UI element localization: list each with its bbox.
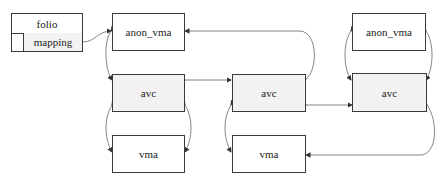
edge-avc-middle-anon-vma: [185, 31, 314, 79]
avc-left-node: avc: [112, 74, 185, 112]
folio-mapping-field: mapping: [24, 33, 82, 51]
folio-empty-cell: [12, 33, 24, 51]
edge-avc-vma-middle: [225, 105, 231, 152]
avc-right-node: avc: [352, 73, 427, 112]
vma-left-node: vma: [112, 135, 185, 173]
folio-struct: folio mapping: [11, 13, 83, 52]
avc-middle-node: avc: [232, 74, 306, 112]
edge-avc-right-vma-middle: [306, 105, 435, 155]
edge-avc-vma-left-b: [185, 105, 191, 152]
edge-anon-vma-avc-right-a: [345, 31, 351, 80]
anon-vma-right-node: anon_vma: [352, 13, 426, 51]
anon-vma-left-node: anon_vma: [112, 13, 185, 51]
vma-middle-node: vma: [232, 135, 306, 173]
folio-title: folio: [12, 14, 82, 34]
